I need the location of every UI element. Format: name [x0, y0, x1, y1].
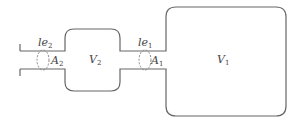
label-a1: A1 [150, 54, 163, 68]
label-a2: A2 [50, 54, 63, 68]
area-a2-crosssection [37, 50, 49, 70]
helmholtz-diagram: le2 A2 V2 le1 A1 V1 [0, 0, 302, 122]
area-a1-crosssection [139, 50, 151, 70]
label-v1: V1 [217, 53, 229, 67]
label-le2: le2 [38, 36, 53, 50]
label-v2: V2 [89, 53, 101, 67]
label-le1: le1 [138, 36, 153, 50]
